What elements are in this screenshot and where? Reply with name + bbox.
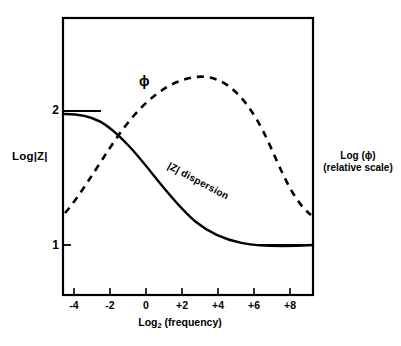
phi-curve-label: ϕ: [139, 73, 150, 89]
y-tick-label-2: 2: [43, 103, 59, 117]
x-tick-label-2: 0: [134, 299, 158, 311]
x-tick-label-3: +2: [170, 299, 194, 311]
y-tick-marks: [63, 111, 71, 245]
y-tick-label-1: 1: [43, 238, 59, 252]
x-tick-label-1: -2: [98, 299, 122, 311]
phase-angle-curve: [65, 77, 311, 215]
x-tick-label-6: +8: [278, 299, 302, 311]
x-tick-label-5: +6: [242, 299, 266, 311]
right-axis-title-line1: Log (ϕ): [340, 150, 375, 161]
x-axis-title-rest: (frequency): [162, 316, 222, 328]
x-axis-title: Log2 (frequency): [110, 316, 250, 329]
plot-canvas: [0, 0, 401, 346]
right-axis-title-line2: (relative scale): [316, 162, 400, 174]
x-tick-label-4: +4: [206, 299, 230, 311]
right-axis-title: Log (ϕ) (relative scale): [316, 150, 400, 173]
x-tick-label-0: -4: [62, 299, 86, 311]
impedance-dispersion-figure: Log|Z| Log (ϕ) (relative scale) Log2 (fr…: [0, 0, 401, 346]
y-axis-title: Log|Z|: [12, 150, 48, 163]
x-axis-title-base: Log: [138, 316, 157, 328]
x-axis-title-subscript: 2: [157, 321, 161, 330]
